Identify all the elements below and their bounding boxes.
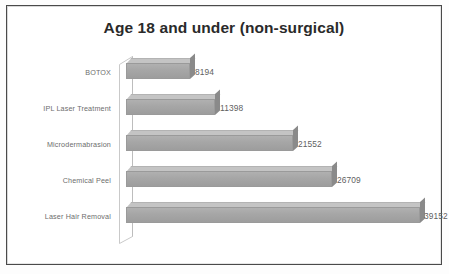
bar-body xyxy=(126,99,215,115)
screenshot-root: Age 18 and under (non-surgical) BOTOX 81 xyxy=(0,0,449,274)
bar[interactable] xyxy=(126,207,420,223)
category-label: IPL Laser Treatment xyxy=(15,104,111,113)
bar-value-label: 11398 xyxy=(220,103,243,113)
bar-row: IPL Laser Treatment 11398 xyxy=(15,90,435,126)
chart-title: Age 18 and under (non-surgical) xyxy=(7,19,441,37)
plot-area: BOTOX 8194 IPL Laser Treatment xyxy=(15,54,435,252)
bar[interactable] xyxy=(126,63,190,79)
bar-row: Laser Hair Removal 39152 xyxy=(15,198,435,234)
bar[interactable] xyxy=(126,99,215,115)
bar-value-label: 26709 xyxy=(337,175,361,185)
category-label: Laser Hair Removal xyxy=(15,212,111,221)
bar-value-label: 21552 xyxy=(298,139,322,149)
bar-body xyxy=(126,63,190,79)
bar-row: BOTOX 8194 xyxy=(15,54,435,90)
bar-value-label: 39152 xyxy=(424,211,448,221)
bar[interactable] xyxy=(126,171,332,187)
bars-layer: BOTOX 8194 IPL Laser Treatment xyxy=(15,54,435,252)
bar-body xyxy=(126,135,293,151)
bar-body xyxy=(126,171,332,187)
bar-body xyxy=(126,207,420,223)
bar-row: Chemical Peel 26709 xyxy=(15,162,435,198)
category-label: BOTOX xyxy=(15,68,111,77)
bar-value-label: 8194 xyxy=(195,67,214,77)
bar-row: Microdermabrasion 21552 xyxy=(15,126,435,162)
category-label: Microdermabrasion xyxy=(15,140,111,149)
chart-frame: Age 18 and under (non-surgical) BOTOX 81 xyxy=(6,5,442,265)
bar[interactable] xyxy=(126,135,293,151)
category-label: Chemical Peel xyxy=(15,176,111,185)
